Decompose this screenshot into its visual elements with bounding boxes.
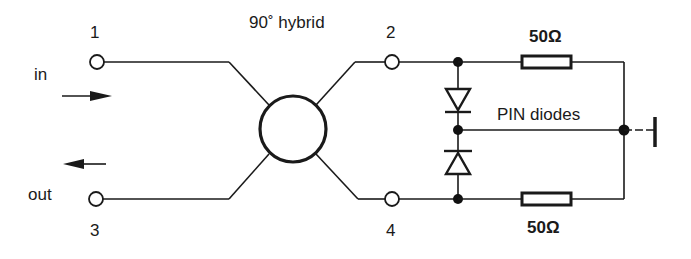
resistor-bottom-icon [522,193,571,205]
port-1-label: 1 [90,24,99,41]
port-1-terminal-icon [90,55,104,69]
pin-diode-hybrid-switch-diagram: 90˚ hybrid 1 2 3 4 in out PIN diodes 50Ω… [0,0,691,259]
port-4-terminal-icon [385,192,399,206]
port-4-label: 4 [386,222,395,239]
port3-line [103,154,269,199]
port2-line [316,62,458,105]
resistor-bottom-branch [458,193,624,205]
port-2-terminal-icon [385,55,399,69]
hybrid-title-label: 90˚ hybrid [249,14,325,31]
resistor-bottom-label: 50Ω [527,219,560,236]
pin-diode-upper-icon [445,89,471,112]
input-arrow-icon [62,91,112,101]
junction-dot-middle [453,125,463,135]
input-label: in [34,66,47,83]
port-2-label: 2 [386,24,395,41]
port-3-terminal-icon [89,192,103,206]
port4-line [316,154,458,199]
port-3-label: 3 [90,222,99,239]
port1-line [104,62,269,105]
diode-column-wires [458,62,624,199]
resistor-top-label: 50Ω [529,28,562,45]
output-arrow-icon [63,159,106,169]
hybrid-coupler-icon [260,96,326,162]
circuit-schematic [0,0,691,259]
resistor-top-icon [522,56,571,68]
pin-diodes-label: PIN diodes [497,106,580,123]
output-label: out [28,186,52,203]
pin-diode-lower-icon [444,151,472,174]
resistor-top-branch [458,56,624,68]
